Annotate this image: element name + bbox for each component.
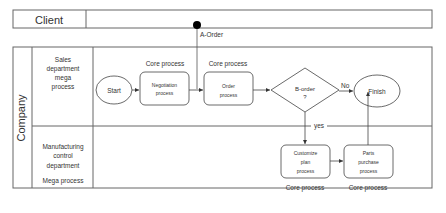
customize-plan-process-node[interactable]: Customize plan process Core process: [281, 145, 330, 192]
svg-text:B-order: B-order: [295, 86, 315, 92]
svg-text:Finish: Finish: [368, 88, 386, 95]
svg-text:mega: mega: [55, 74, 72, 82]
svg-text:control: control: [53, 152, 73, 159]
process-diagram: Client Company Sales department mega pro…: [0, 0, 446, 213]
svg-text:Parts: Parts: [363, 150, 375, 156]
sales-lane-label: Sales department mega process: [47, 56, 80, 91]
svg-text:process: process: [220, 92, 238, 98]
no-label: No: [341, 82, 350, 89]
svg-text:Mega process: Mega process: [43, 177, 85, 185]
svg-text:process: process: [156, 90, 174, 96]
svg-text:process: process: [360, 168, 378, 174]
order-caption: Core process: [209, 60, 248, 68]
order-process-node[interactable]: Core process Order process: [204, 60, 253, 105]
yes-label: yes: [314, 122, 325, 130]
svg-text:Customize: Customize: [294, 150, 318, 156]
svg-text:plan: plan: [301, 159, 311, 165]
parts-caption: Core process: [349, 184, 388, 192]
svg-text:Order: Order: [222, 83, 235, 89]
svg-text:department: department: [47, 65, 80, 73]
company-label: Company: [15, 94, 27, 142]
client-lane: Client: [13, 10, 432, 28]
negotiation-process-node[interactable]: Core process Negotiation process: [140, 60, 189, 105]
b-order-decision[interactable]: B-order ?: [271, 68, 339, 112]
finish-node[interactable]: Finish: [354, 75, 400, 107]
svg-text:process: process: [52, 83, 76, 91]
svg-text:process: process: [297, 168, 315, 174]
svg-text:Negotiation: Negotiation: [152, 82, 178, 88]
manufacturing-lane-label: Manufacturing control department Mega pr…: [42, 143, 84, 185]
svg-text:Sales: Sales: [55, 56, 72, 63]
svg-text:purchase: purchase: [358, 159, 379, 165]
svg-text:Start: Start: [107, 87, 121, 94]
client-label: Client: [35, 14, 63, 26]
start-node[interactable]: Start: [96, 76, 132, 104]
a-order-label: A-Order: [200, 31, 224, 38]
customize-caption: Core process: [286, 184, 325, 192]
svg-text:Manufacturing: Manufacturing: [42, 143, 84, 151]
negotiation-caption: Core process: [146, 60, 185, 68]
parts-purchase-process-node[interactable]: Parts purchase process Core process: [344, 145, 393, 192]
svg-text:department: department: [47, 162, 80, 170]
event-dot-icon: [193, 21, 201, 29]
